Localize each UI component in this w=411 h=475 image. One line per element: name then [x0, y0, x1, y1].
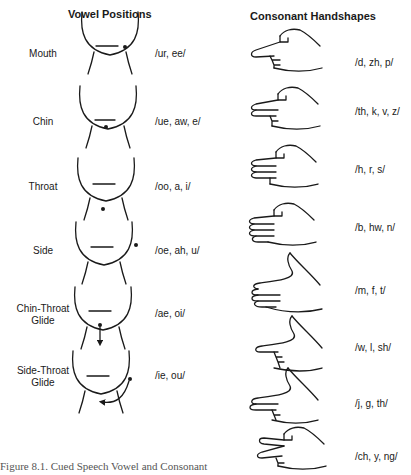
handshape-1-icon — [252, 29, 323, 71]
handshape-6-icon — [256, 316, 322, 371]
handshape-5-icon — [252, 253, 322, 312]
face-mouth-icon — [82, 12, 139, 74]
handshape-4-icon — [250, 203, 317, 245]
face-chin-throat-glide-icon — [75, 287, 132, 349]
handshape-3-icon — [252, 145, 319, 187]
handshape-8-icon — [258, 427, 327, 469]
face-side-icon — [76, 222, 138, 284]
handshape-2-icon — [252, 87, 321, 129]
figure-caption: Figure 8.1. Cued Speech Vowel and Conson… — [0, 460, 207, 472]
diagram-artwork — [0, 0, 411, 475]
face-chin-icon — [80, 86, 137, 148]
handshape-7-icon — [250, 368, 318, 423]
face-throat-icon — [78, 158, 135, 220]
face-side-throat-glide-icon — [73, 351, 132, 413]
